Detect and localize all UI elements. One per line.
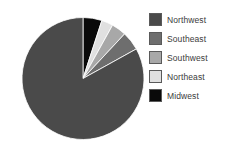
legend-item-southeast[interactable]: Southeast — [149, 29, 223, 48]
legend-item-northwest[interactable]: Northwest — [149, 10, 223, 29]
pie-slices-group — [22, 17, 144, 139]
legend-item-southwest[interactable]: Southwest — [149, 48, 223, 67]
legend-label-southeast: Southeast — [167, 34, 206, 44]
pie-chart-figure: Northwest Southeast Southwest Northeast … — [0, 0, 225, 143]
legend-item-northeast[interactable]: Northeast — [149, 67, 223, 86]
legend-swatch-midwest — [149, 89, 162, 102]
legend-label-northeast: Northeast — [167, 72, 205, 82]
chart-legend: Northwest Southeast Southwest Northeast … — [149, 10, 223, 114]
legend-swatch-southeast — [149, 32, 162, 45]
legend-label-northwest: Northwest — [167, 15, 206, 25]
legend-label-southwest: Southwest — [167, 53, 208, 63]
legend-swatch-northwest — [149, 13, 162, 26]
pie-plot-area — [21, 17, 145, 140]
legend-swatch-southwest — [149, 51, 162, 64]
legend-label-midwest: Midwest — [167, 91, 199, 101]
pie-svg — [21, 17, 145, 140]
legend-swatch-northeast — [149, 70, 162, 83]
legend-item-midwest[interactable]: Midwest — [149, 86, 223, 105]
